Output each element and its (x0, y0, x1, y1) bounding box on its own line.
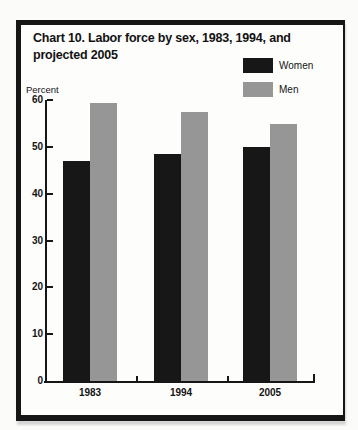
bar-men-1994 (181, 112, 208, 381)
y-axis-tick (47, 333, 53, 335)
y-axis-tick (47, 240, 53, 242)
y-tick-label: 40 (18, 188, 43, 200)
y-tick-label: 0 (18, 375, 43, 387)
x-category-label-1983: 1983 (65, 387, 115, 399)
y-tick-label: 30 (18, 235, 43, 247)
chart-figure-canvas: Chart 10. Labor force by sex, 1983, 1994… (0, 0, 358, 430)
x-category-label-1994: 1994 (156, 387, 206, 399)
y-axis-tick (47, 99, 53, 101)
x-axis-tick (136, 376, 138, 381)
y-axis-tick (47, 146, 53, 148)
y-axis-tick (47, 286, 53, 288)
bar-men-1983 (90, 103, 117, 381)
bar-men-2005 (270, 124, 297, 381)
y-axis-tick (47, 193, 53, 195)
legend-label-men: Men (279, 82, 298, 97)
y-tick-label: 50 (18, 141, 43, 153)
bar-women-1983 (63, 161, 90, 381)
x-axis-tick (227, 376, 229, 381)
x-category-label-2005: 2005 (245, 387, 295, 399)
x-axis-line (44, 381, 315, 383)
y-tick-label: 20 (18, 281, 43, 293)
bar-women-2005 (243, 147, 270, 381)
y-tick-label: 10 (18, 328, 43, 340)
y-tick-label: 60 (18, 94, 43, 106)
x-axis-endcap (313, 374, 315, 383)
legend-label-women: Women (279, 58, 313, 73)
women-color-swatch (243, 58, 273, 73)
chart-title-line-1: Chart 10. Labor force by sex, 1983, 1994… (33, 30, 328, 47)
men-color-swatch (243, 82, 273, 97)
bar-women-1994 (154, 154, 181, 381)
